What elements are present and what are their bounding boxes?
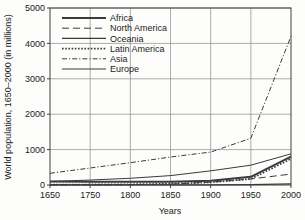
y-tick-label: 4000 — [25, 39, 45, 49]
y-tick-label: 0 — [40, 180, 45, 190]
line-chart: 1650175018001850190019502000 01000200030… — [0, 0, 305, 220]
x-axis-title: Years — [159, 206, 182, 216]
y-tick-label: 5000 — [25, 3, 45, 13]
x-tick-label: 1900 — [201, 190, 221, 200]
legend-label-africa: Africa — [110, 13, 133, 23]
y-tick-label: 2000 — [25, 109, 45, 119]
legend-label-oceania: Oceania — [110, 34, 144, 44]
y-tick-label: 3000 — [25, 74, 45, 84]
x-tick-label: 2000 — [281, 190, 301, 200]
chart-figure: 1650175018001850190019502000 01000200030… — [0, 0, 305, 220]
legend-label-north-america: North America — [110, 23, 167, 33]
legend-label-latin-america: Latin America — [110, 44, 165, 54]
y-axis-title: World population, 1650–2000 (in millions… — [3, 14, 13, 179]
x-tick-label: 1950 — [241, 190, 261, 200]
x-tick-label: 1800 — [120, 190, 140, 200]
legend-label-asia: Asia — [110, 54, 128, 64]
y-tick-label: 1000 — [25, 145, 45, 155]
x-tick-label: 1850 — [160, 190, 180, 200]
x-tick-label: 1650 — [40, 190, 60, 200]
legend-label-europe: Europe — [110, 64, 139, 74]
x-tick-label: 1750 — [80, 190, 100, 200]
